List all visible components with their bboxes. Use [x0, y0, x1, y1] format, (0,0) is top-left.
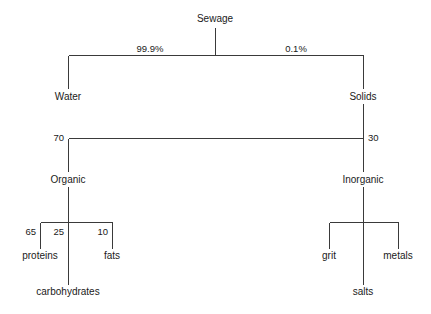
edge-value-solids-to-organic: 70 [53, 132, 64, 143]
node-label-sewage: Sewage [197, 13, 234, 24]
edge-value-sewage-to-solids: 0.1% [285, 43, 307, 54]
edge-value-organic-to-carbohydrates: 25 [53, 226, 64, 237]
node-label-metals: metals [383, 250, 412, 261]
edge-value-sewage-to-water: 99.9% [137, 43, 164, 54]
node-label-grit: grit [322, 250, 336, 261]
tree-diagram: Sewage Water Solids Organic Inorganic pr… [0, 0, 431, 314]
edge-value-organic-to-fats: 10 [97, 226, 108, 237]
node-label-water: Water [55, 91, 82, 102]
edge-value-solids-to-inorganic: 30 [368, 132, 379, 143]
node-label-proteins: proteins [22, 250, 58, 261]
node-label-salts: salts [353, 286, 374, 297]
node-label-carbohydrates: carbohydrates [36, 286, 99, 297]
node-label-organic: Organic [50, 174, 85, 185]
tree-diagram-canvas: Sewage Water Solids Organic Inorganic pr… [0, 0, 431, 314]
node-label-fats: fats [104, 250, 120, 261]
node-label-inorganic: Inorganic [342, 174, 383, 185]
edge-value-organic-to-proteins: 65 [25, 226, 36, 237]
node-label-solids: Solids [349, 91, 376, 102]
